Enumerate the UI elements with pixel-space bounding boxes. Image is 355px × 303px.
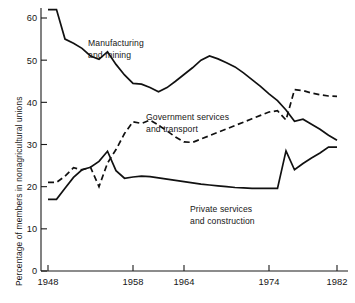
annotation-private-services-and-construction: Private services and construction xyxy=(190,204,255,226)
x-axis-tick-marks xyxy=(48,265,337,271)
y-tick-label: 30 xyxy=(27,140,37,150)
annotation-private-line1: Private services xyxy=(190,204,252,214)
annotation-manufacturing-line2: and mining xyxy=(88,50,131,60)
series-line-private-services-and-construction xyxy=(48,147,337,199)
annotation-manufacturing-and-mining: Manufacturing and mining xyxy=(88,38,144,60)
y-tick-label: 20 xyxy=(27,182,37,192)
y-axis-tick-marks xyxy=(41,18,47,271)
x-tick-label: 1958 xyxy=(123,276,144,287)
x-axis-tick-labels: 19481958196419741982 xyxy=(38,276,348,287)
x-tick-label: 1948 xyxy=(38,276,59,287)
y-tick-label: 50 xyxy=(27,56,37,66)
annotation-government-line2: and transport xyxy=(146,124,198,134)
x-tick-label: 1974 xyxy=(259,276,280,287)
x-tick-label: 1964 xyxy=(174,276,195,287)
annotation-manufacturing-line1: Manufacturing xyxy=(88,38,144,48)
x-tick-label: 1982 xyxy=(327,276,348,287)
y-axis-tick-labels: 0102030405060 xyxy=(27,13,37,276)
annotation-government-line1: Government services xyxy=(146,112,229,122)
annotation-government-services-and-transport: Government services and transport xyxy=(146,112,229,134)
annotation-private-line2: and construction xyxy=(190,216,255,226)
line-chart-plot: 0102030405060 19481958196419741982 Manuf… xyxy=(0,0,355,303)
y-tick-label: 40 xyxy=(27,98,37,108)
y-tick-label: 60 xyxy=(27,13,37,23)
y-tick-label: 10 xyxy=(27,224,37,234)
series-line-government-services-and-transport xyxy=(48,90,337,187)
chart-figure: Percentage of members in nonagricultural… xyxy=(0,0,355,303)
y-tick-label: 0 xyxy=(32,266,37,276)
